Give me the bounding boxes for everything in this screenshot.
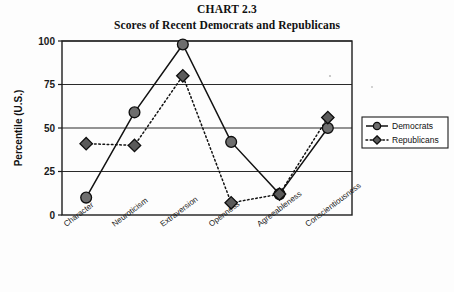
legend-marker-circle [373, 122, 380, 129]
legend-label-republicans: Republicans [392, 135, 439, 145]
chart-plot-area: 0255075100 Percentile (U.S.) CharacterNe… [0, 0, 454, 292]
chart-figure: CHART 2.3 Scores of Recent Democrats and… [0, 0, 454, 292]
data-point-democrats-character [81, 192, 92, 203]
series-lines-group [86, 44, 328, 202]
data-point-republicans-neuroticism [128, 139, 140, 151]
x-tick-label: Neuroticism [110, 196, 149, 229]
x-axis-labels-group: CharacterNeuroticismExtraversionOpenness… [62, 181, 363, 229]
x-tick-label: Conscientiousness [304, 181, 363, 229]
data-point-democrats-openness [226, 137, 237, 148]
chart-legend: DemocratsRepublicans [362, 117, 448, 148]
gridlines-group [62, 41, 352, 172]
series-markers-group [80, 39, 334, 209]
speckle-artifact [371, 86, 373, 88]
y-tick-label: 100 [38, 36, 55, 47]
y-tick-label: 75 [44, 79, 56, 90]
legend-label-democrats: Democrats [392, 121, 433, 131]
x-tick-label: Extraversion [159, 195, 200, 229]
y-tick-label: 0 [49, 210, 55, 221]
y-axis-label-group: Percentile (U.S.) [13, 90, 24, 167]
y-tick-label: 25 [44, 166, 56, 177]
data-point-republicans-character [80, 137, 92, 149]
data-point-republicans-conscientiousness [322, 111, 334, 123]
data-point-democrats-neuroticism [129, 107, 140, 118]
data-point-republicans-extraversion [177, 70, 189, 82]
y-tick-label: 50 [44, 123, 56, 134]
y-axis-label: Percentile (U.S.) [13, 90, 24, 167]
speckle-artifact [329, 75, 331, 77]
y-axis-ticks-group: 0255075100 [38, 36, 62, 221]
data-point-democrats-extraversion [177, 39, 188, 50]
